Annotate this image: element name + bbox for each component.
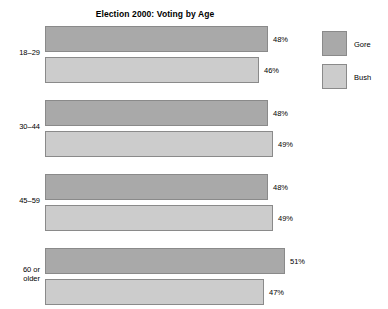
group-label-line2: older bbox=[23, 274, 40, 283]
legend-swatch-gore-icon bbox=[322, 31, 347, 56]
bar-value-bush: 46% bbox=[264, 66, 279, 75]
bar-bush[interactable] bbox=[45, 205, 273, 231]
bar-value-bush: 49% bbox=[278, 140, 293, 149]
group-label-line1: 45–59 bbox=[19, 196, 40, 205]
bar-gore[interactable] bbox=[45, 26, 268, 52]
group-label: 18–29 bbox=[0, 48, 40, 57]
bar-gore[interactable] bbox=[45, 100, 268, 126]
chart-title: Election 2000: Voting by Age bbox=[0, 9, 310, 19]
group-label-line1: 60 or bbox=[23, 265, 40, 274]
plot-area: 18–29 48% 46% 30–44 48% bbox=[0, 26, 310, 282]
bar-group: 60 or older 51% 47% bbox=[0, 248, 310, 309]
bar-value-bush: 49% bbox=[278, 214, 293, 223]
group-label: 60 or older bbox=[0, 265, 40, 283]
bar-value-gore: 48% bbox=[273, 35, 288, 44]
bar-group: 30–44 48% 49% bbox=[0, 100, 310, 162]
bar-group: 45–59 48% 49% bbox=[0, 174, 310, 236]
bar-value-gore: 48% bbox=[273, 183, 288, 192]
group-label: 45–59 bbox=[0, 196, 40, 205]
bar-bush[interactable] bbox=[45, 57, 259, 83]
bar-value-bush: 47% bbox=[269, 288, 284, 297]
legend-label-bush: Bush bbox=[354, 73, 371, 82]
bar-bush[interactable] bbox=[45, 131, 273, 157]
group-label: 30–44 bbox=[0, 122, 40, 131]
bar-value-gore: 48% bbox=[273, 109, 288, 118]
bar-group: 18–29 48% 46% bbox=[0, 26, 310, 88]
bar-gore[interactable] bbox=[45, 248, 285, 274]
bar-value-gore: 51% bbox=[290, 257, 305, 266]
group-label-line1: 18–29 bbox=[19, 48, 40, 57]
bar-gore[interactable] bbox=[45, 174, 268, 200]
bar-bush[interactable] bbox=[45, 279, 264, 305]
legend-label-gore: Gore bbox=[354, 40, 371, 49]
group-label-line1: 30–44 bbox=[19, 122, 40, 131]
legend-swatch-bush-icon bbox=[322, 64, 347, 89]
